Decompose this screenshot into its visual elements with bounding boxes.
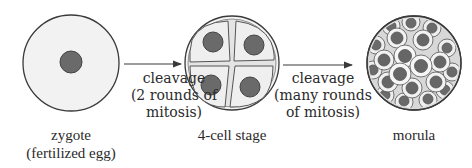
morula-embryo bbox=[364, 13, 461, 111]
four-cell-caption: 4-cell stage bbox=[182, 126, 282, 144]
zygote-cell bbox=[23, 15, 119, 111]
four-cell-title: 4-cell stage bbox=[182, 126, 282, 144]
zygote-subtitle: (fertilized egg) bbox=[11, 144, 131, 162]
arrow-1-line-3: mitosis) bbox=[118, 104, 230, 121]
arrow-1-label: cleavage (2 rounds of mitosis) bbox=[118, 70, 230, 121]
zygote-caption: zygote (fertilized egg) bbox=[11, 126, 131, 162]
zygote-title: zygote bbox=[11, 126, 131, 144]
zygote-nucleus bbox=[60, 51, 82, 73]
arrow-2-line-2: (many rounds bbox=[268, 87, 378, 104]
arrow-2-line-3: of mitosis) bbox=[268, 104, 378, 121]
arrow-2-line-1: cleavage bbox=[268, 70, 378, 87]
arrow-2-label: cleavage (many rounds of mitosis) bbox=[268, 70, 378, 121]
arrow-1-line-2: (2 rounds of bbox=[118, 87, 230, 104]
arrow-1-line-1: cleavage bbox=[118, 70, 230, 87]
embryo-cleavage-diagram: cleavage (2 rounds of mitosis) cleavage … bbox=[0, 0, 472, 168]
morula-caption: morula bbox=[374, 126, 454, 144]
morula-title: morula bbox=[374, 126, 454, 144]
